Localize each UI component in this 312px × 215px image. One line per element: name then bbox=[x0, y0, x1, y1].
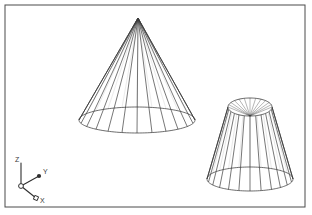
viewport[interactable]: ZYX bbox=[0, 0, 312, 215]
axis-label-x: X bbox=[40, 197, 45, 204]
axis-marker-y-icon bbox=[37, 174, 41, 178]
axis-label-z: Z bbox=[15, 156, 20, 163]
axis-origin-marker bbox=[19, 184, 24, 189]
wireframe-canvas[interactable]: ZYX bbox=[0, 0, 312, 215]
axis-label-y: Y bbox=[43, 168, 48, 175]
axis-marker-x-icon bbox=[33, 195, 38, 200]
